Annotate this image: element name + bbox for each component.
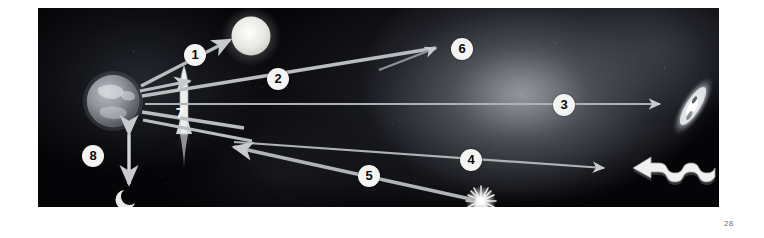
callout-badge-1[interactable]: 1 bbox=[184, 44, 206, 66]
callout-badge-5[interactable]: 5 bbox=[358, 165, 380, 187]
supernova-burst bbox=[466, 186, 496, 207]
beam-fan-lower2 bbox=[143, 120, 252, 141]
arrow-4-line bbox=[234, 142, 604, 168]
callout-badge-7[interactable]: 7 bbox=[169, 102, 191, 124]
arrow-5-line bbox=[234, 147, 475, 200]
callout-badge-3[interactable]: 3 bbox=[553, 94, 575, 116]
bright-star-sun bbox=[221, 8, 281, 66]
callout-badge-8[interactable]: 8 bbox=[82, 145, 104, 167]
callout-badge-6[interactable]: 6 bbox=[451, 38, 473, 60]
callout-badge-4[interactable]: 4 bbox=[460, 149, 482, 171]
page-number: 28 bbox=[724, 219, 734, 228]
figure-root: 1 2 3 4 5 6 7 8 28 bbox=[0, 0, 764, 238]
beam-fan-lower bbox=[142, 112, 244, 128]
callout-badge-2[interactable]: 2 bbox=[267, 68, 289, 90]
radio-wave-symbol bbox=[633, 157, 715, 185]
distant-galaxy bbox=[665, 71, 719, 141]
moon bbox=[115, 190, 135, 207]
earth bbox=[83, 71, 143, 131]
space-scene-panel: 1 2 3 4 5 6 7 8 bbox=[38, 8, 719, 207]
